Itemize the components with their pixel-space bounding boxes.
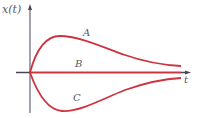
curve-a <box>30 36 181 73</box>
curve-b-label: B <box>74 58 82 69</box>
y-axis-label: x(t) <box>2 3 21 16</box>
t-axis-label: t <box>184 74 189 85</box>
y-axis-arrow-icon <box>28 4 32 10</box>
curve-c <box>30 73 181 112</box>
curve-c-label: C <box>73 92 81 103</box>
diagram-canvas: x(t) t A B C <box>0 0 201 118</box>
curve-a-label: A <box>82 27 90 38</box>
